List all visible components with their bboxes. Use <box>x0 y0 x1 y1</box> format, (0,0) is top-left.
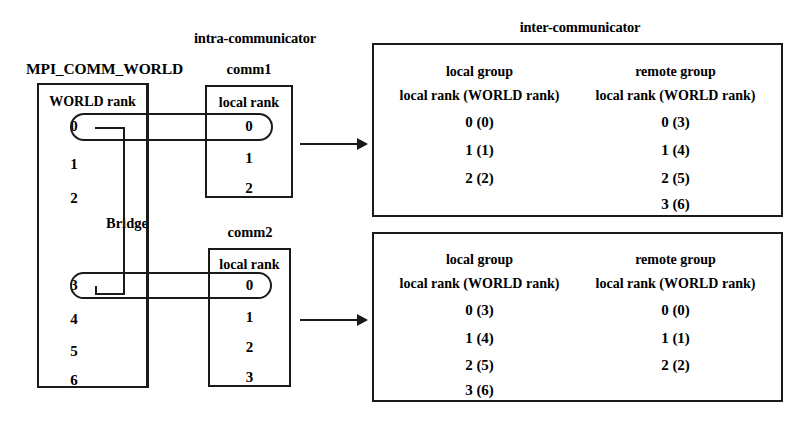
comm2-rank-value: 1 <box>208 309 291 326</box>
arrow-to-inter1-head-icon <box>357 138 368 150</box>
comm2-title: comm2 <box>208 224 292 241</box>
comm1-rank-value: 1 <box>205 150 293 167</box>
bridge-connector-end-tick <box>95 286 97 295</box>
inter2-local-entry: 0 (3) <box>382 302 577 319</box>
comm2-rank-value: 3 <box>208 369 291 386</box>
inter2-local-entry: 1 (4) <box>382 330 577 347</box>
inter1-remote-group-column-header: local rank (WORLD rank) <box>578 88 773 104</box>
diagram-canvas: intra-communicator inter-communicator MP… <box>0 0 812 424</box>
world-rank-column-header: WORLD rank <box>37 94 148 110</box>
arrow-to-inter2 <box>300 319 358 321</box>
world-rank-value: 5 <box>37 343 111 360</box>
inter1-local-entry: 0 (0) <box>382 114 577 131</box>
comm1-rank-value: 2 <box>205 180 293 197</box>
inter1-local-entry: 1 (1) <box>382 142 577 159</box>
arrow-to-inter1 <box>300 143 358 145</box>
inter2-local-entry: 2 (5) <box>382 357 577 374</box>
arrow-to-inter2-head-icon <box>357 314 368 326</box>
comm1-title: comm1 <box>205 61 293 78</box>
inter2-local-entry: 3 (6) <box>382 382 577 399</box>
bridge-connector-top-stub <box>95 127 125 129</box>
mpi-comm-world-title: MPI_COMM_WORLD <box>26 60 183 78</box>
inter1-remote-entry: 0 (3) <box>578 114 773 131</box>
world-rank-value: 2 <box>37 190 111 207</box>
inter2-remote-entry: 2 (2) <box>578 357 773 374</box>
inter1-local-group-column-header: local rank (WORLD rank) <box>382 88 577 104</box>
inter-communicator-heading: inter-communicator <box>470 19 690 36</box>
comm2-rank-value: 2 <box>208 339 291 356</box>
world-box-inner-rule <box>147 83 149 388</box>
intra-communicator-heading: intra-communicator <box>180 30 330 47</box>
world-rank-value: 1 <box>37 156 111 173</box>
inter1-remote-entry: 1 (4) <box>578 142 773 159</box>
bridge-connector-bottom-stub <box>95 293 125 295</box>
inter2-local-group-column-header: local rank (WORLD rank) <box>382 276 577 292</box>
inter1-local-entry: 2 (2) <box>382 170 577 187</box>
inter2-remote-entry: 1 (1) <box>578 330 773 347</box>
comm2-rank-column-header: local rank <box>208 257 291 273</box>
bridge-connector-trunk <box>123 127 125 295</box>
world-rank-value: 4 <box>37 311 111 328</box>
inter2-local-group-title: local group <box>382 252 577 268</box>
inter2-remote-entry: 0 (0) <box>578 302 773 319</box>
inter2-remote-group-column-header: local rank (WORLD rank) <box>578 276 773 292</box>
inter1-remote-entry: 2 (5) <box>578 170 773 187</box>
inter1-remote-group-title: remote group <box>578 64 773 80</box>
inter1-local-group-title: local group <box>382 64 577 80</box>
world-rank-value: 6 <box>37 372 111 389</box>
inter1-remote-entry: 3 (6) <box>578 196 773 213</box>
comm1-rank-column-header: local rank <box>205 95 293 111</box>
inter2-remote-group-title: remote group <box>578 252 773 268</box>
